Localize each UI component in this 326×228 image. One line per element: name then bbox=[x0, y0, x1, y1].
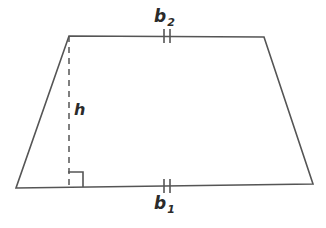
trapezoid-outline bbox=[16, 36, 313, 188]
label-b1-subscript: 1 bbox=[167, 203, 175, 216]
label-top-base-b2: b2 bbox=[154, 8, 174, 25]
label-b1-letter: b bbox=[154, 193, 166, 213]
label-bottom-base-b1: b1 bbox=[154, 195, 174, 212]
label-b2-letter: b bbox=[154, 6, 166, 26]
trapezoid-figure: b2 b1 h bbox=[0, 0, 326, 228]
label-h-letter: h bbox=[74, 100, 85, 119]
label-height-h: h bbox=[74, 102, 85, 118]
right-angle-marker-icon bbox=[68, 172, 83, 187]
label-b2-subscript: 2 bbox=[167, 16, 175, 29]
